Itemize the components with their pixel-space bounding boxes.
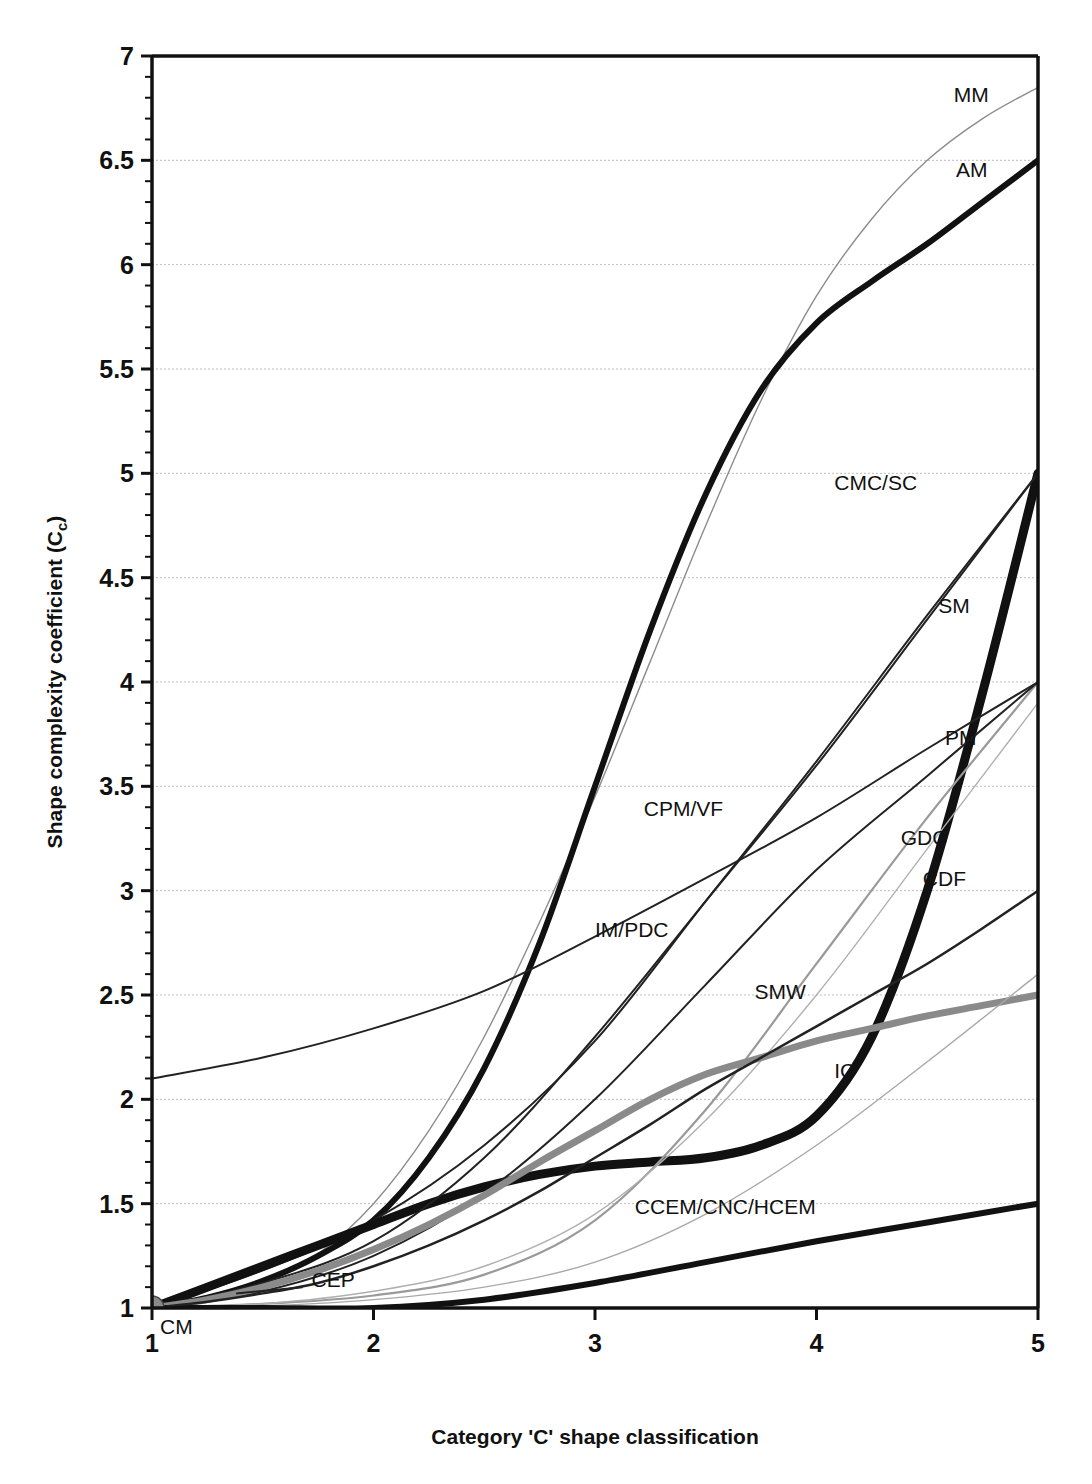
series-label-im-pdc: IM/PDC [595, 918, 669, 941]
y-tick-label: 5 [120, 459, 134, 487]
series-label-cmc-sc: CMC/SC [834, 471, 917, 494]
series-label-pm: PM [945, 726, 977, 749]
x-tick-label: 5 [1031, 1329, 1045, 1357]
y-tick-label: 2 [120, 1085, 134, 1113]
series-label-mm: MM [954, 83, 989, 106]
chart-page: 11.522.533.544.555.566.5712345 MMAMCMC/S… [0, 0, 1092, 1484]
x-tick-label: 2 [367, 1329, 381, 1357]
y-tick-label: 6.5 [99, 146, 134, 174]
shape-complexity-chart: 11.522.533.544.555.566.5712345 MMAMCMC/S… [0, 0, 1092, 1484]
series-label-sm: SM [938, 594, 970, 617]
y-tick-label: 2.5 [99, 981, 134, 1009]
x-tick-label: 4 [810, 1329, 824, 1357]
x-tick-label: 1 [145, 1329, 159, 1357]
y-tick-label: 1 [120, 1294, 134, 1322]
y-axis-title: Shape complexity coefficient (Cc) [43, 516, 70, 849]
series-label-ccem-cnc-hcem: CCEM/CNC/HCEM [635, 1195, 816, 1218]
y-tick-label: 4 [120, 668, 134, 696]
series-label-cdf: CDF [923, 867, 966, 890]
series-label-smw: SMW [754, 980, 806, 1003]
y-tick-label: 1.5 [99, 1190, 134, 1218]
y-tick-label: 3 [120, 877, 134, 905]
origin-label-cm: CM [160, 1315, 193, 1338]
series-label-ic: IC [834, 1059, 855, 1082]
x-axis-title: Category 'C' shape classification [431, 1425, 758, 1448]
series-label-cpm-vf: CPM/VF [644, 797, 723, 820]
series-label-gdc: GDC [901, 826, 948, 849]
y-tick-label: 6 [120, 251, 134, 279]
y-tick-label: 4.5 [99, 564, 134, 592]
x-tick-label: 3 [588, 1329, 602, 1357]
series-label-cep: CEP [311, 1268, 354, 1291]
y-tick-label: 5.5 [99, 355, 134, 383]
svg-text:Shape complexity coefficient (: Shape complexity coefficient (Cc) [43, 516, 70, 849]
series-label-am: AM [956, 158, 988, 181]
y-tick-label: 3.5 [99, 772, 134, 800]
y-tick-label: 7 [120, 42, 134, 70]
chart-background [0, 0, 1092, 1484]
